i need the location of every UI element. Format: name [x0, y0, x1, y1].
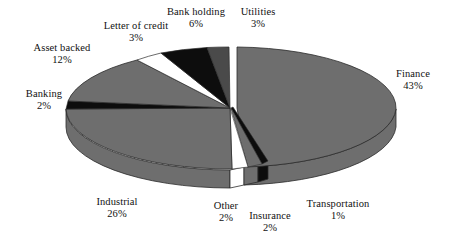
pie-label-letter-of-credit-name: Letter of credit	[86, 20, 186, 32]
pie-label-banking: Banking 2%	[10, 88, 78, 112]
pie-label-transportation-value: 1%	[292, 210, 384, 222]
pie-label-asset-backed-value: 12%	[18, 54, 106, 66]
pie-label-banking-name: Banking	[10, 88, 78, 100]
slice-side-other	[230, 167, 244, 188]
pie-label-finance-name: Finance	[382, 68, 444, 80]
pie-label-utilities-name: Utilities	[224, 6, 292, 18]
pie-label-transportation-name: Transportation	[292, 198, 384, 210]
pie-chart-figure: Bank holding 6% Utilities 3% Letter of c…	[0, 0, 452, 252]
pie-label-industrial-name: Industrial	[78, 196, 156, 208]
slice-industrial	[66, 108, 232, 169]
pie-label-transportation: Transportation 1%	[292, 198, 384, 222]
pie-label-industrial-value: 26%	[78, 208, 156, 220]
pie-label-insurance-value: 2%	[238, 222, 302, 234]
pie-label-asset-backed: Asset backed 12%	[18, 42, 106, 66]
pie-label-banking-value: 2%	[10, 100, 78, 112]
pie-label-industrial: Industrial 26%	[78, 196, 156, 220]
pie-label-finance-value: 43%	[382, 80, 444, 92]
pie-label-utilities: Utilities 3%	[224, 6, 292, 30]
pie-label-finance: Finance 43%	[382, 68, 444, 92]
pie-label-asset-backed-name: Asset backed	[18, 42, 106, 54]
pie-label-utilities-value: 3%	[224, 18, 292, 30]
pie-label-letter-of-credit: Letter of credit 3%	[86, 20, 186, 44]
